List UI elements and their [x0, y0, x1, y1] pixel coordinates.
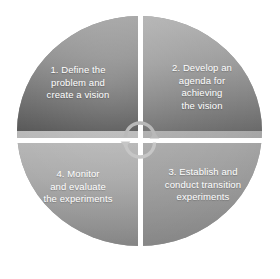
divider-horizontal: [11, 138, 269, 143]
cycle-diagram: 1. Define the problem and create a visio…: [0, 0, 280, 279]
segment-4-label: 4. Monitor and evaluate the experiments: [24, 168, 132, 206]
segment-3-label: 3. Establish and conduct transition expe…: [148, 166, 258, 204]
segment-1-label: 1. Define the problem and create a visio…: [26, 64, 130, 102]
divider-vertical: [138, 10, 143, 252]
segment-2-label: 2. Develop an agenda for achieving the v…: [150, 62, 254, 112]
